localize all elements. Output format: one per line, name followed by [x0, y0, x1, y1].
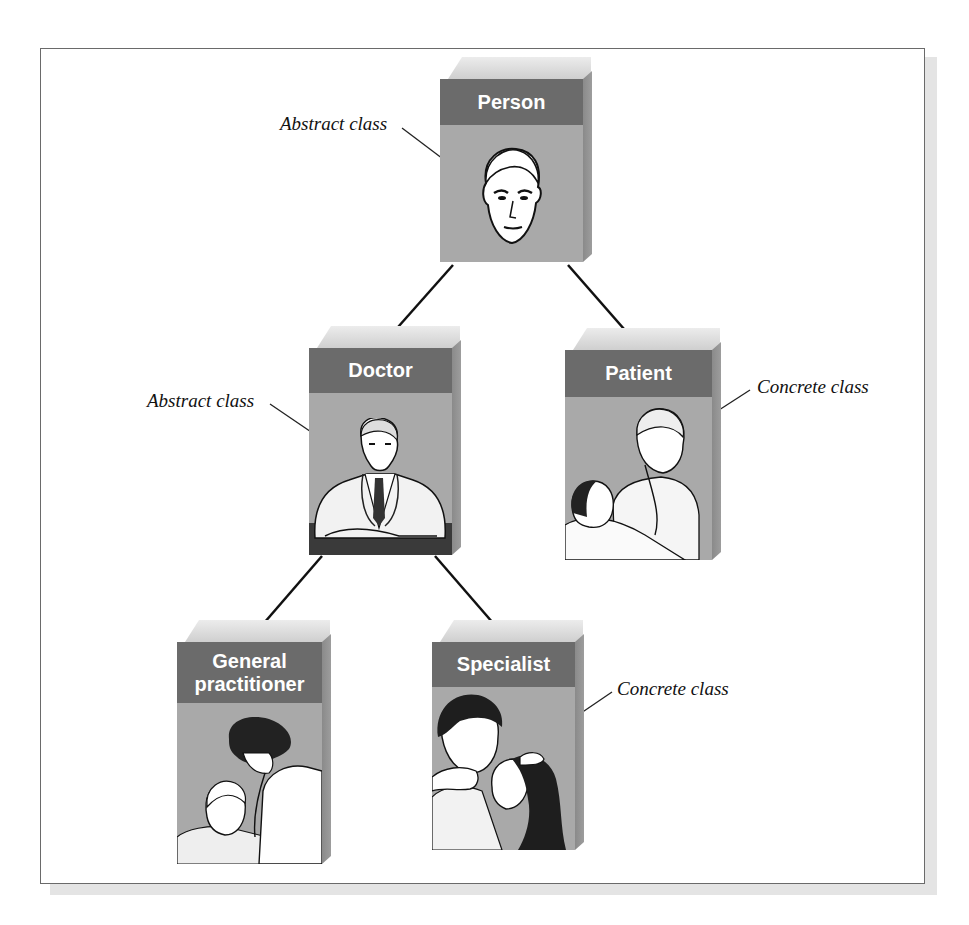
- box-side-face: [452, 340, 461, 555]
- man-face-illustration: [476, 143, 548, 253]
- general-practitioner-illustration: [177, 717, 322, 864]
- class-title: Person: [440, 79, 583, 125]
- class-title-line2: practitioner: [194, 673, 304, 696]
- box-side-face: [575, 634, 584, 850]
- annotation-doctor-abstract: Abstract class: [147, 390, 254, 412]
- class-title: Patient: [565, 350, 712, 397]
- box-side-face: [712, 342, 721, 560]
- box-front-face: Specialist: [432, 642, 575, 850]
- class-title-text: Patient: [605, 362, 672, 385]
- annotation-specialist-concrete: Concrete class: [617, 678, 729, 700]
- box-top-face: [573, 328, 720, 350]
- class-title: General practitioner: [177, 642, 322, 703]
- box-front-face: Patient: [565, 350, 712, 560]
- class-title-line1: General: [212, 650, 286, 673]
- class-title-text: Person: [478, 91, 546, 114]
- doctor-illustration: [309, 418, 452, 548]
- box-top-face: [317, 326, 460, 348]
- box-top-face: [440, 620, 583, 642]
- box-front-face: Doctor: [309, 348, 452, 555]
- box-side-face: [583, 71, 592, 262]
- class-title: Doctor: [309, 348, 452, 393]
- box-front-face: General practitioner: [177, 642, 322, 864]
- patient-illustration: [565, 405, 712, 560]
- box-top-face: [185, 620, 330, 642]
- class-title-text: Doctor: [348, 359, 412, 382]
- annotation-patient-concrete: Concrete class: [757, 376, 869, 398]
- specialist-illustration: [432, 687, 575, 850]
- class-title: Specialist: [432, 642, 575, 687]
- annotation-person-abstract: Abstract class: [280, 113, 387, 135]
- box-front-face: Person: [440, 79, 583, 262]
- box-side-face: [322, 634, 331, 864]
- box-top-face: [448, 57, 591, 79]
- class-title-text: Specialist: [457, 653, 550, 676]
